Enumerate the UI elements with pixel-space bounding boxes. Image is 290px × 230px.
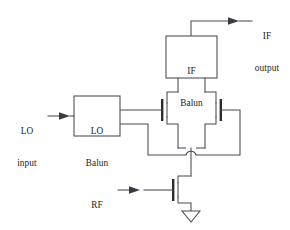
lo-input-label-line1: LO [6,126,48,137]
rf-fet-drain-wire [178,176,191,183]
rf-input-label: RF input [76,178,118,230]
left-fet-source-wire [167,117,178,148]
if-output-label-line2: output [245,63,289,74]
lo-input-label-line2: input [6,158,48,169]
if-output-wire [191,21,228,36]
if-output-label: IF output [245,9,289,95]
if-output-arrow-icon [228,17,239,24]
ground-symbol-icon [182,211,200,222]
lo-input-arrow-icon [59,112,70,119]
left-fet-drain-wire [167,92,178,103]
circuit-schematic: IF Balun LO Balun IF output LO input RF … [0,0,290,230]
lo-input-label: LO input [6,104,48,190]
rf-fet-source-wire [178,197,191,211]
lo-balun-lower-output-wire [120,124,186,155]
rf-input-label-line1: RF [76,200,118,211]
right-fet-source-wire [205,117,216,148]
rf-input-arrow-icon [129,186,140,193]
if-balun-rect [166,36,217,78]
if-output-label-line1: IF [245,31,289,42]
right-fet-drain-wire [205,92,216,103]
lo-balun-rect [74,96,120,136]
